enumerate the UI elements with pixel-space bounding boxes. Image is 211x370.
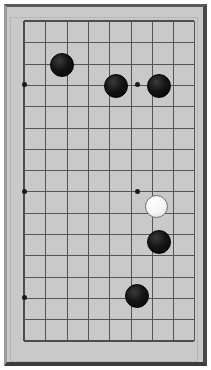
stone-black-5[interactable] (125, 284, 149, 308)
stone-black-4[interactable] (147, 230, 171, 254)
stone-black-3[interactable] (147, 74, 171, 98)
stone-white-1[interactable] (145, 195, 168, 218)
stone-black-2[interactable] (104, 74, 128, 98)
go-board-screenshot (0, 0, 211, 370)
board-surface[interactable] (7, 7, 203, 362)
board-frame (4, 4, 207, 366)
stones-layer (7, 7, 210, 369)
stone-black-1[interactable] (50, 53, 74, 77)
